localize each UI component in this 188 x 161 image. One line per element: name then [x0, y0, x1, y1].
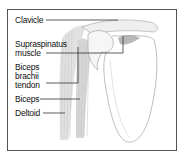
label-clavicle: Clavicle	[15, 16, 43, 25]
supraspinatus-muscle	[118, 35, 140, 45]
label-text: muscle	[15, 49, 67, 58]
label-text: Clavicle	[15, 15, 43, 25]
label-text: Biceps	[15, 94, 39, 104]
label-text: tendon	[15, 81, 40, 90]
label-biceps: Biceps	[15, 95, 39, 104]
humerus-head	[88, 31, 113, 70]
label-biceps-brachii-tendon: Biceps brachii tendon	[15, 63, 40, 90]
label-deltoid: Deltoid	[15, 109, 40, 118]
label-text: Deltoid	[15, 108, 40, 118]
scapula-outline	[104, 36, 157, 143]
label-supraspinatus-muscle: Supraspinatus muscle	[15, 40, 67, 58]
